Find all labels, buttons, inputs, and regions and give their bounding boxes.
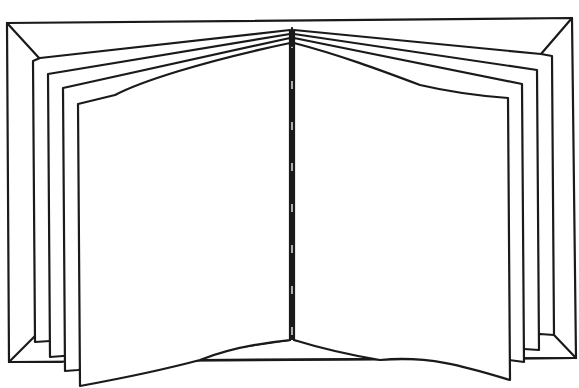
open-book-icon [0,0,579,388]
right-pages [294,30,554,380]
open-book-figure: Open book line drawing [0,0,579,388]
left-pages [33,30,290,386]
